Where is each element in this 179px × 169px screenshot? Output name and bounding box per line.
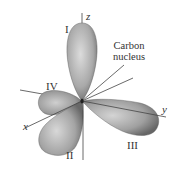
lobe-label-i: I — [65, 24, 69, 35]
lobe-label-ii: II — [66, 150, 73, 161]
z-axis-label: z — [86, 11, 90, 22]
orbital-lobe-iii — [82, 99, 159, 135]
carbon-nucleus-dot — [80, 98, 83, 103]
annotation-line-1: Carbon — [113, 40, 145, 51]
lobe-label-iii: III — [127, 140, 138, 151]
hybrid-orbital-diagram — [0, 0, 179, 169]
lobe-label-iv: IV — [46, 81, 58, 92]
orbital-lobe-i — [67, 23, 97, 101]
annotation-line-2: nucleus — [113, 51, 145, 62]
x-axis-label: x — [23, 121, 28, 132]
y-axis-label: y — [162, 104, 167, 115]
carbon-nucleus-annotation: Carbon nucleus — [113, 40, 145, 62]
